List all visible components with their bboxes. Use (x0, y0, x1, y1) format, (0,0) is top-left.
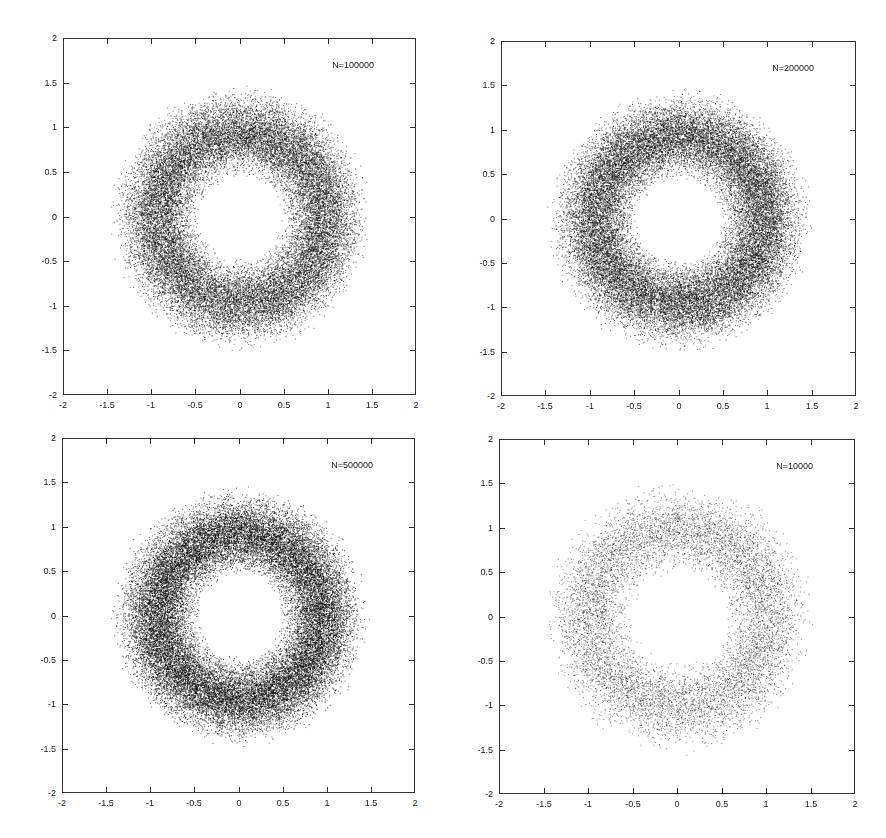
y-tick-label: -0.5 (477, 656, 493, 666)
x-tick-mark (372, 39, 373, 44)
y-tick-label: 1 (52, 122, 57, 132)
x-tick-mark (634, 390, 635, 395)
x-tick-mark (544, 440, 545, 445)
y-tick-mark (500, 528, 505, 529)
x-tick-label: 2 (413, 400, 418, 410)
y-tick-mark (409, 616, 414, 617)
y-tick-mark (502, 130, 507, 131)
x-tick-mark (545, 42, 546, 47)
x-tick-mark (766, 440, 767, 445)
y-tick-mark (849, 572, 854, 573)
y-tick-mark (502, 219, 507, 220)
y-tick-mark (850, 307, 855, 308)
x-tick-label: 1.5 (805, 799, 818, 809)
x-tick-label: 1 (324, 798, 329, 808)
x-tick-label: 1 (763, 799, 768, 809)
x-tick-mark (150, 787, 151, 792)
x-tick-mark (284, 389, 285, 394)
y-tick-mark (849, 705, 854, 706)
x-tick-mark (723, 390, 724, 395)
x-tick-mark (634, 42, 635, 47)
scatter-points (63, 439, 416, 794)
y-tick-mark (500, 750, 505, 751)
x-tick-mark (545, 390, 546, 395)
x-tick-mark (150, 439, 151, 444)
x-tick-mark (372, 389, 373, 394)
x-tick-label: -2 (497, 401, 505, 411)
x-tick-label: -1 (146, 798, 154, 808)
x-tick-mark (679, 42, 680, 47)
x-tick-mark (544, 788, 545, 793)
y-tick-mark (409, 571, 414, 572)
y-tick-mark (64, 217, 69, 218)
x-tick-label: -2 (58, 798, 66, 808)
x-tick-label: 1 (764, 401, 769, 411)
x-tick-mark (633, 788, 634, 793)
x-tick-mark (767, 390, 768, 395)
x-tick-mark (812, 42, 813, 47)
x-tick-label: 1.5 (806, 401, 819, 411)
y-tick-mark (849, 617, 854, 618)
y-tick-mark (409, 749, 414, 750)
x-tick-mark (151, 39, 152, 44)
x-tick-mark (588, 440, 589, 445)
x-tick-label: -2 (495, 799, 503, 809)
x-tick-label: -1 (586, 401, 594, 411)
y-tick-mark (500, 705, 505, 706)
x-tick-mark (812, 390, 813, 395)
x-tick-mark (679, 390, 680, 395)
y-tick-label: 0.5 (44, 167, 57, 177)
y-tick-mark (849, 528, 854, 529)
y-tick-label: 0.5 (480, 567, 493, 577)
x-tick-label: 0.5 (277, 798, 290, 808)
y-tick-label: 0 (488, 612, 493, 622)
y-tick-mark (410, 83, 415, 84)
x-tick-mark (327, 787, 328, 792)
x-tick-label: 0 (676, 401, 681, 411)
x-tick-mark (766, 788, 767, 793)
y-tick-label: 2 (52, 33, 57, 43)
y-tick-label: 1.5 (43, 477, 56, 487)
x-tick-label: -1.5 (536, 799, 552, 809)
y-tick-mark (410, 172, 415, 173)
x-tick-label: 1.5 (365, 798, 378, 808)
x-tick-label: -0.5 (625, 799, 641, 809)
y-tick-mark (409, 704, 414, 705)
x-tick-label: 0 (237, 400, 242, 410)
x-tick-mark (723, 42, 724, 47)
x-tick-mark (106, 787, 107, 792)
x-tick-mark (240, 389, 241, 394)
y-tick-label: 0.5 (482, 169, 495, 179)
y-tick-label: -1.5 (41, 345, 57, 355)
y-tick-label: 0 (52, 212, 57, 222)
y-tick-mark (850, 130, 855, 131)
y-tick-label: -1 (48, 699, 56, 709)
x-tick-mark (767, 42, 768, 47)
y-tick-mark (502, 352, 507, 353)
x-tick-label: 2 (853, 401, 858, 411)
y-tick-mark (409, 527, 414, 528)
y-tick-mark (64, 350, 69, 351)
x-tick-label: 2 (852, 799, 857, 809)
y-tick-label: -2 (485, 789, 493, 799)
y-tick-mark (63, 616, 68, 617)
y-tick-label: 2 (488, 434, 493, 444)
x-tick-mark (633, 440, 634, 445)
x-tick-mark (588, 788, 589, 793)
y-tick-label: -0.5 (479, 258, 495, 268)
x-tick-mark (284, 39, 285, 44)
y-tick-label: 1.5 (482, 80, 495, 90)
x-tick-label: -1 (584, 799, 592, 809)
y-tick-mark (63, 704, 68, 705)
scatter-points (64, 39, 417, 396)
y-tick-label: 0.5 (43, 566, 56, 576)
y-tick-mark (500, 661, 505, 662)
y-tick-mark (409, 482, 414, 483)
x-tick-mark (327, 439, 328, 444)
y-tick-label: -0.5 (41, 256, 57, 266)
y-tick-label: 0 (490, 214, 495, 224)
y-tick-mark (64, 172, 69, 173)
x-tick-mark (240, 39, 241, 44)
x-tick-label: -1.5 (537, 401, 553, 411)
scatter-points (500, 440, 856, 795)
